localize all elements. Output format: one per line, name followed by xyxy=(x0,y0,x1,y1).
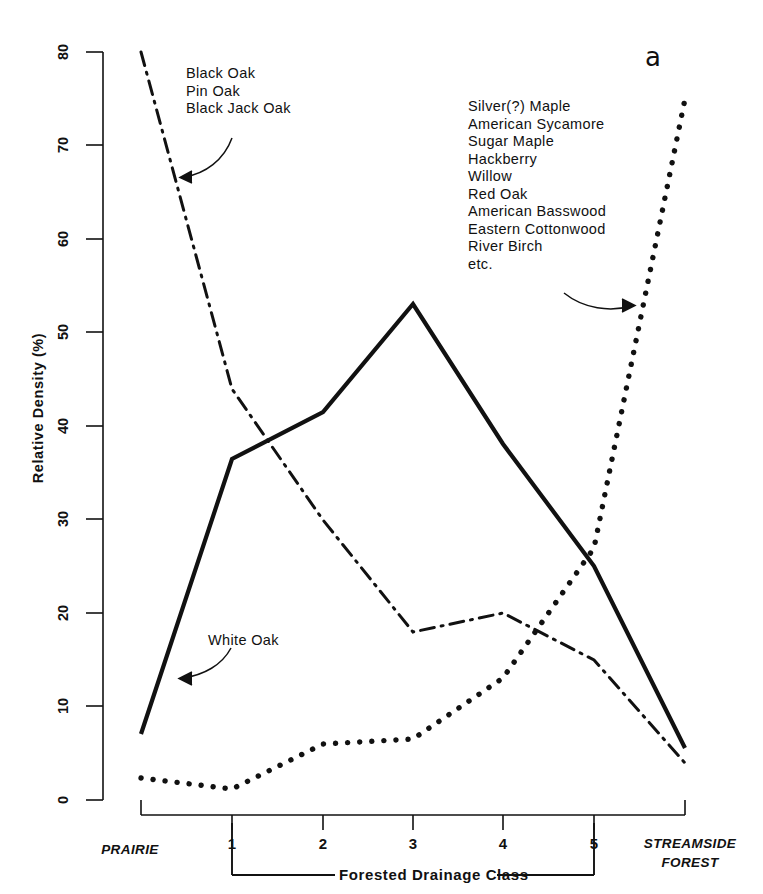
white-oak-arrow xyxy=(179,648,231,685)
bottomland-line-2: American Sycamore xyxy=(468,116,606,134)
black-oak-annotation: Black Oak Pin Oak Black Jack Oak xyxy=(186,65,291,118)
black-oak-arrow xyxy=(180,138,232,183)
y-tick-label-20: 20 xyxy=(55,598,71,628)
bottomland-line-7: American Basswood xyxy=(468,203,606,221)
figure-panel: a Relative Density (%) 0 10 20 30 40 50 … xyxy=(0,0,763,894)
x-axis xyxy=(141,800,685,830)
y-tick-label-30: 30 xyxy=(55,504,71,534)
x-left-label: PRAIRIE xyxy=(75,842,185,857)
bottomland-line-10: etc. xyxy=(468,256,606,274)
x-tick-label-2: 2 xyxy=(308,835,338,852)
y-tick-label-10: 10 xyxy=(55,691,71,721)
bottomland-line-5: Willow xyxy=(468,168,606,186)
y-tick-label-0: 0 xyxy=(55,785,71,815)
y-tick-label-80: 80 xyxy=(55,37,71,67)
black-oak-line-1: Black Oak xyxy=(186,65,291,83)
x-tick-label-4: 4 xyxy=(488,835,518,852)
bottomland-line-1: Silver(?) Maple xyxy=(468,98,606,116)
y-tick-label-50: 50 xyxy=(55,317,71,347)
x-tick-label-3: 3 xyxy=(398,835,428,852)
bottomland-line-9: River Birch xyxy=(468,238,606,256)
series-white-oak xyxy=(141,304,685,748)
x-tick-label-5: 5 xyxy=(579,835,609,852)
bottomland-line-6: Red Oak xyxy=(468,186,606,204)
bottomland-line-3: Sugar Maple xyxy=(468,133,606,151)
y-axis-title: Relative Density (%) xyxy=(30,308,46,508)
y-tick-label-40: 40 xyxy=(55,411,71,441)
black-oak-line-3: Black Jack Oak xyxy=(186,100,291,118)
bottomland-arrow xyxy=(564,293,635,312)
chart-canvas xyxy=(0,0,763,894)
y-tick-label-60: 60 xyxy=(55,224,71,254)
y-axis xyxy=(86,52,103,800)
bottomland-line-8: Eastern Cottonwood xyxy=(468,221,606,239)
black-oak-line-2: Pin Oak xyxy=(186,83,291,101)
panel-label: a xyxy=(645,42,661,72)
x-tick-label-1: 1 xyxy=(217,835,247,852)
bottomland-annotation: Silver(?) Maple American Sycamore Sugar … xyxy=(468,98,606,273)
x-axis-title: Forested Drainage Class xyxy=(339,866,529,883)
bottomland-line-4: Hackberry xyxy=(468,151,606,169)
y-tick-label-70: 70 xyxy=(55,130,71,160)
x-right-label-line2: FOREST xyxy=(625,855,755,870)
x-right-label-line1: STREAMSIDE xyxy=(625,836,755,851)
white-oak-annotation: White Oak xyxy=(208,632,279,650)
